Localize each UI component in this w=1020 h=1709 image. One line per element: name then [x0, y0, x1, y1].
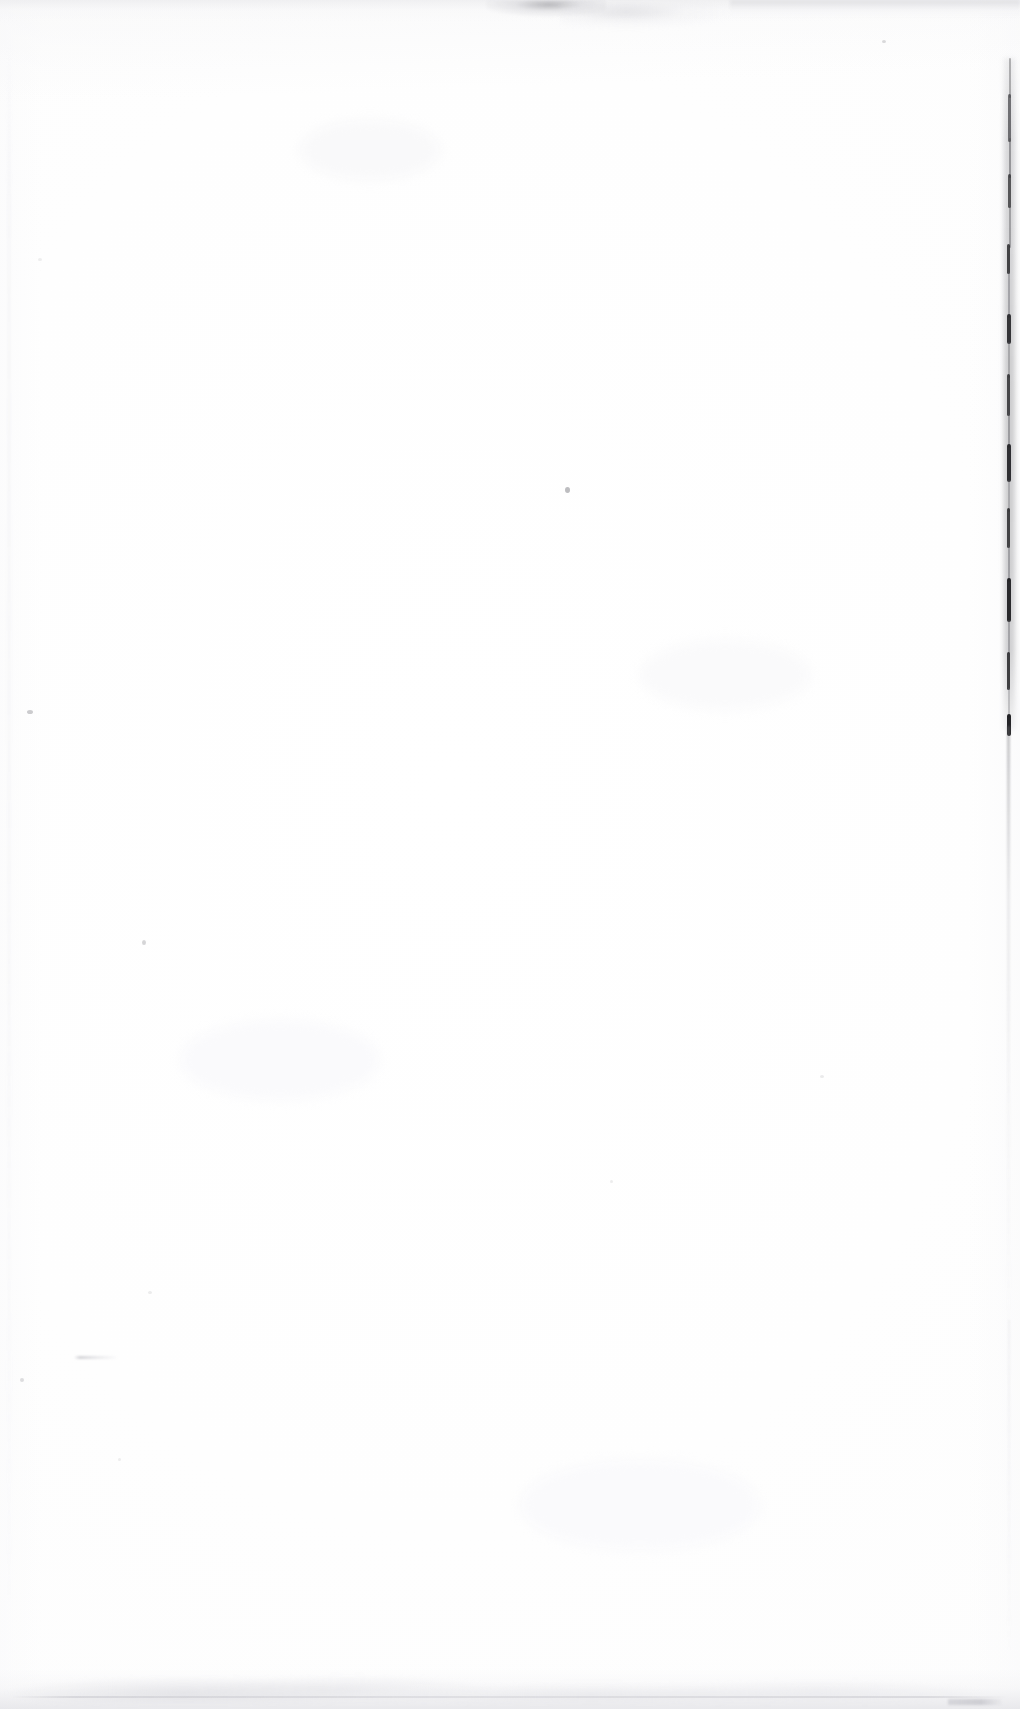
ink-speck-low-center [610, 1180, 613, 1183]
paper-blotch [640, 640, 810, 710]
paper-blotch [520, 1460, 760, 1550]
bottom-corner-mark [948, 1699, 1002, 1705]
left-page-edge [8, 40, 10, 1600]
ink-speck-top-right [882, 40, 886, 43]
ink-speck-mid-right [820, 1075, 824, 1078]
binding-edge-fade [1007, 726, 1010, 1326]
ink-speck-mid-left [118, 1458, 121, 1461]
ink-speck-upper-left [38, 258, 42, 261]
bottom-edge-rule [12, 1696, 1008, 1698]
top-smudge-blot-2 [560, 2, 780, 42]
bottom-edge-mottle [0, 1669, 1020, 1703]
scanned-page [0, 0, 1020, 1709]
binding-edge-line [1006, 58, 1013, 728]
paper-tone-overlay [0, 0, 1020, 1709]
binding-edge-halo [1004, 58, 1015, 730]
ink-speck-center [565, 487, 570, 493]
paper-blotch [300, 120, 440, 180]
pencil-stroke-smudge [74, 1356, 116, 1359]
ink-speck-low-left-2 [148, 1291, 152, 1294]
top-smudge-right [730, 0, 1020, 18]
ink-speck-lower-left [20, 1378, 24, 1382]
paper-blotch [180, 1020, 380, 1100]
bottom-edge-shadow [0, 1653, 1020, 1709]
ink-speck-left-upper [27, 710, 33, 714]
top-smudge-band [0, 0, 1020, 22]
ink-speck-left-mid [142, 940, 146, 945]
binding-edge-fade-2 [1008, 1320, 1010, 1650]
top-smudge-blot [486, 0, 606, 26]
